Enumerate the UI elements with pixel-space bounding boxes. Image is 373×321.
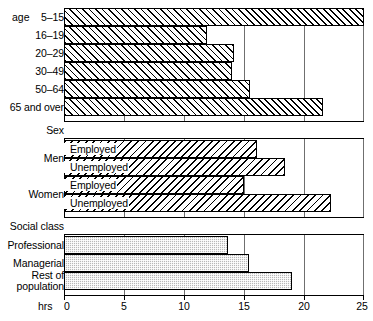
bar-row-age-20-29 (64, 44, 234, 62)
ylabel-women: Women (29, 189, 65, 200)
ylabel-age-20-29: 20–29 (35, 48, 64, 59)
group-header-box-sex (64, 121, 364, 139)
bar-row-age-30-49 (64, 62, 232, 80)
bar-women-unemployed: Unemployed (64, 194, 331, 212)
bar-row-professional (64, 236, 228, 254)
ylabel-age-30-49: 30–49 (35, 66, 64, 77)
bar-row-men-employed: Employed (64, 140, 257, 158)
ticklabel-10: 10 (178, 301, 190, 312)
gridline-25 (363, 8, 364, 295)
plot-area: Employed Unemployed Employed Unemployed (64, 8, 364, 295)
bar-label-women-employed: Employed (65, 180, 116, 191)
bar-row-rest-of-population (64, 272, 292, 290)
gridline-20 (304, 8, 305, 295)
axis-line-x (64, 295, 364, 296)
bar-men-employed: Employed (64, 140, 257, 158)
bar-label-women-unemployed: Unemployed (65, 198, 128, 209)
ylabel-age-5-15: 5–15 (41, 12, 64, 23)
bar-age-16-19 (64, 26, 207, 44)
ylabel-rest-line2: population (17, 281, 64, 292)
ylabel-managerial: Managerial (13, 258, 64, 269)
bar-row-age-65-over (64, 98, 323, 116)
bar-rest-of-population (64, 272, 292, 290)
ylabel-rest-of-population: Rest of population (17, 270, 64, 292)
bar-row-women-employed: Employed (64, 176, 244, 194)
bar-row-age-50-64 (64, 80, 250, 98)
bar-managerial (64, 254, 249, 272)
bar-age-20-29 (64, 44, 234, 62)
bar-label-men-unemployed: Unemployed (65, 162, 128, 173)
ylabel-age-65-over: 65 and over (10, 102, 64, 113)
ylabel-men: Men (44, 153, 64, 164)
ticklabel-25: 25 (356, 301, 368, 312)
bar-men-unemployed: Unemployed (64, 158, 285, 176)
bar-age-5-15 (64, 8, 364, 26)
ticklabel-0: 0 (64, 301, 70, 312)
bar-row-age-5-15 (64, 8, 364, 26)
bar-age-65-over (64, 98, 323, 116)
bar-professional (64, 236, 228, 254)
bar-row-age-16-19 (64, 26, 207, 44)
ticklabel-5: 5 (121, 301, 127, 312)
bar-row-managerial (64, 254, 249, 272)
ylabel-professional: Professional (7, 240, 64, 251)
ticklabel-15: 15 (238, 301, 250, 312)
bar-women-employed: Employed (64, 176, 244, 194)
bar-label-men-employed: Employed (65, 144, 116, 155)
ticklabel-20: 20 (298, 301, 310, 312)
axis-unit-label: hrs (38, 301, 53, 312)
ylabel-group-social-class: Social class (10, 221, 64, 232)
chart-container: Employed Unemployed Employed Unemployed (0, 0, 373, 321)
bar-row-men-unemployed: Unemployed (64, 158, 285, 176)
bar-age-50-64 (64, 80, 250, 98)
bar-age-30-49 (64, 62, 232, 80)
ylabel-group-sex: Sex (46, 125, 64, 136)
ylabel-age-50-64: 50–64 (35, 84, 64, 95)
bar-row-women-unemployed: Unemployed (64, 194, 331, 212)
ylabel-age-16-19: 16–19 (35, 30, 64, 41)
group-label-age: age (12, 12, 30, 23)
group-header-box-social-class (64, 217, 364, 235)
